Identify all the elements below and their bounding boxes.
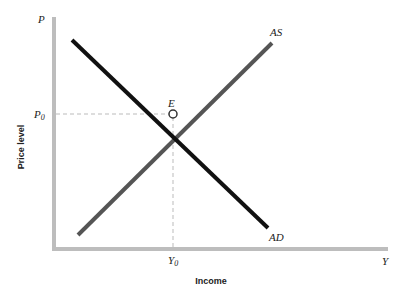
- y0-tick-label: Y0: [168, 254, 178, 268]
- ad-curve: [72, 40, 268, 228]
- as-label: AS: [269, 26, 283, 38]
- ad-as-chart: P P0 E AS AD Y0 Y Income Price level: [0, 0, 404, 300]
- x-axis-label: Income: [195, 276, 227, 286]
- x-axis-symbol: Y: [382, 255, 390, 267]
- ad-label: AD: [268, 231, 284, 243]
- y-axis-symbol: P: [37, 13, 45, 25]
- equilibrium-label: E: [167, 97, 175, 109]
- equilibrium-point: [169, 110, 177, 118]
- p0-tick-label: P0: [33, 108, 45, 122]
- y-axis-label: Price level: [16, 125, 26, 170]
